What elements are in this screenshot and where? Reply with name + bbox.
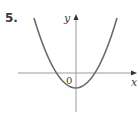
x-axis-arrow-icon [131,71,137,76]
origin-label: 0 [66,75,72,86]
y-axis-arrow-icon [74,14,79,20]
parabola-graph: y x 0 [0,0,138,120]
y-axis-label: y [63,12,71,25]
x-axis-label: x [131,76,138,89]
